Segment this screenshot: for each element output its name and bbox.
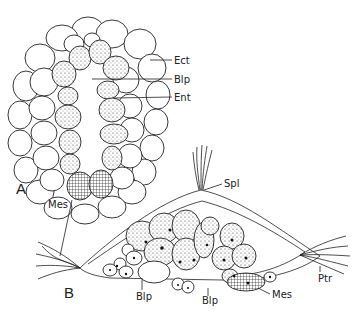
label-ect: Ect xyxy=(174,55,190,66)
embryo-diagram: Ect Blp Ent Mes A xyxy=(0,0,360,314)
panel-letter-a: A xyxy=(16,180,26,197)
panel-a-embryo xyxy=(8,17,172,256)
label-mes-a: Mes xyxy=(48,199,68,210)
label-blp-b-left: Blp xyxy=(136,291,152,302)
panel-letter-b: B xyxy=(64,284,74,301)
apical-tuft xyxy=(193,145,212,190)
label-spl: Spl xyxy=(224,178,239,189)
mesoderm-cells xyxy=(67,170,113,200)
label-blp-a: Blp xyxy=(174,74,190,85)
left-tuft xyxy=(36,242,80,279)
label-ptr: Ptr xyxy=(318,273,333,284)
endoderm-cells xyxy=(52,40,129,174)
label-ent: Ent xyxy=(174,92,191,103)
label-blp-b-right: Blp xyxy=(202,295,218,306)
prototroch-tuft xyxy=(300,236,350,274)
label-mes-b: Mes xyxy=(272,289,292,300)
